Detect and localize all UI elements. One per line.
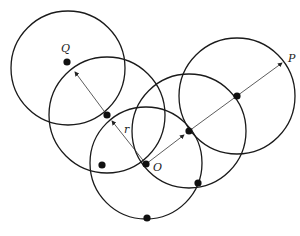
point-q — [63, 58, 70, 65]
label-o: O — [153, 161, 162, 174]
point-6 — [233, 92, 240, 99]
point-7 — [194, 179, 201, 186]
circles — [11, 11, 295, 219]
radius-arrow-upper — [75, 72, 107, 115]
points — [63, 58, 240, 221]
labels: Q P O r — [61, 42, 296, 174]
point-2 — [103, 111, 110, 118]
circle-q — [11, 11, 125, 125]
point-8 — [143, 214, 150, 221]
point-3 — [98, 161, 105, 168]
point-5 — [185, 127, 192, 134]
label-q: Q — [61, 42, 70, 55]
ray-o-to-p5 — [146, 135, 184, 164]
label-r: r — [124, 123, 130, 136]
label-p: P — [287, 52, 296, 65]
diagram-canvas: Q P O r — [0, 0, 300, 236]
point-o — [142, 160, 149, 167]
